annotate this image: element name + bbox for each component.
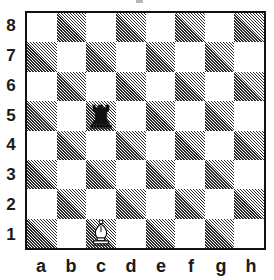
square-e4[interactable] <box>146 131 176 160</box>
square-d8[interactable] <box>116 13 146 42</box>
square-e3[interactable] <box>146 160 176 189</box>
square-g1[interactable] <box>205 219 235 248</box>
chessboard-grid <box>27 13 264 248</box>
rank-label-8: 8 <box>0 11 25 41</box>
square-b6[interactable] <box>57 72 87 101</box>
square-f4[interactable] <box>175 131 205 160</box>
square-c3[interactable] <box>86 160 116 189</box>
square-e2[interactable] <box>146 189 176 218</box>
square-c1[interactable] <box>86 219 116 248</box>
file-label-h: h <box>236 251 266 280</box>
square-c6[interactable] <box>86 72 116 101</box>
square-g7[interactable] <box>205 42 235 71</box>
square-b5[interactable] <box>57 101 87 130</box>
rank-label-5: 5 <box>0 100 25 130</box>
file-label-g: g <box>206 251 236 280</box>
file-label-a: a <box>26 251 56 280</box>
square-b3[interactable] <box>57 160 87 189</box>
square-c5[interactable] <box>86 101 116 130</box>
square-d4[interactable] <box>116 131 146 160</box>
rank-labels: 87654321 <box>0 11 25 249</box>
square-h8[interactable] <box>234 13 264 42</box>
square-a4[interactable] <box>27 131 57 160</box>
square-h7[interactable] <box>234 42 264 71</box>
rank-label-1: 1 <box>0 219 25 249</box>
file-labels: abcdefgh <box>26 251 266 280</box>
square-f1[interactable] <box>175 219 205 248</box>
square-a3[interactable] <box>27 160 57 189</box>
square-c2[interactable] <box>86 189 116 218</box>
square-h5[interactable] <box>234 101 264 130</box>
rank-label-4: 4 <box>0 130 25 160</box>
square-d6[interactable] <box>116 72 146 101</box>
square-d7[interactable] <box>116 42 146 71</box>
square-b7[interactable] <box>57 42 87 71</box>
square-a2[interactable] <box>27 189 57 218</box>
square-d2[interactable] <box>116 189 146 218</box>
square-a1[interactable] <box>27 219 57 248</box>
rank-label-3: 3 <box>0 160 25 190</box>
rank-label-7: 7 <box>0 41 25 71</box>
square-e8[interactable] <box>146 13 176 42</box>
square-e6[interactable] <box>146 72 176 101</box>
square-c4[interactable] <box>86 131 116 160</box>
square-g4[interactable] <box>205 131 235 160</box>
chess-diagram: 87654321 abcdefgh <box>0 0 274 280</box>
square-g6[interactable] <box>205 72 235 101</box>
rank-label-6: 6 <box>0 71 25 101</box>
white-bishop-icon[interactable] <box>88 219 114 247</box>
file-label-d: d <box>116 251 146 280</box>
square-g2[interactable] <box>205 189 235 218</box>
file-label-c: c <box>86 251 116 280</box>
square-e1[interactable] <box>146 219 176 248</box>
square-a5[interactable] <box>27 101 57 130</box>
square-f7[interactable] <box>175 42 205 71</box>
square-f8[interactable] <box>175 13 205 42</box>
square-b2[interactable] <box>57 189 87 218</box>
rank-label-2: 2 <box>0 190 25 220</box>
square-h3[interactable] <box>234 160 264 189</box>
square-f6[interactable] <box>175 72 205 101</box>
square-d1[interactable] <box>116 219 146 248</box>
square-h1[interactable] <box>234 219 264 248</box>
square-f2[interactable] <box>175 189 205 218</box>
square-d3[interactable] <box>116 160 146 189</box>
square-b4[interactable] <box>57 131 87 160</box>
square-f5[interactable] <box>175 101 205 130</box>
square-g3[interactable] <box>205 160 235 189</box>
square-a8[interactable] <box>27 13 57 42</box>
black-rook-icon[interactable] <box>88 102 114 130</box>
chessboard[interactable] <box>25 11 266 250</box>
square-a6[interactable] <box>27 72 57 101</box>
file-label-f: f <box>176 251 206 280</box>
file-label-e: e <box>146 251 176 280</box>
square-h6[interactable] <box>234 72 264 101</box>
square-h4[interactable] <box>234 131 264 160</box>
square-c8[interactable] <box>86 13 116 42</box>
square-g5[interactable] <box>205 101 235 130</box>
square-g8[interactable] <box>205 13 235 42</box>
square-h2[interactable] <box>234 189 264 218</box>
square-c7[interactable] <box>86 42 116 71</box>
square-e7[interactable] <box>146 42 176 71</box>
square-d5[interactable] <box>116 101 146 130</box>
square-e5[interactable] <box>146 101 176 130</box>
square-b1[interactable] <box>57 219 87 248</box>
cropped-top-mark <box>136 0 143 3</box>
square-f3[interactable] <box>175 160 205 189</box>
square-a7[interactable] <box>27 42 57 71</box>
square-b8[interactable] <box>57 13 87 42</box>
file-label-b: b <box>56 251 86 280</box>
